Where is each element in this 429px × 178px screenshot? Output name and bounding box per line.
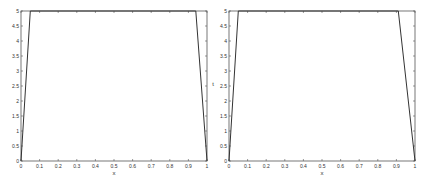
y-tick-label: 5 <box>224 8 227 14</box>
y-tick-label: 4.5 <box>12 23 19 29</box>
y-tick-label: 1.5 <box>12 113 19 119</box>
x-tick-label: 0.7 <box>148 163 155 169</box>
y-tick-label: 0 <box>16 158 19 164</box>
data-line <box>21 11 207 161</box>
y-tick-label: 1.5 <box>220 113 227 119</box>
x-tick-label: 0.6 <box>129 163 136 169</box>
y-axis-label: t <box>212 81 214 87</box>
y-tick-label: 3 <box>224 68 227 74</box>
y-tick-label: 1 <box>224 128 227 134</box>
x-tick-label: 0.4 <box>300 163 307 169</box>
figure: 00.10.20.30.40.50.60.70.80.9100.511.522.… <box>0 0 429 178</box>
y-tick-label: 2 <box>224 98 227 104</box>
y-tick-label: 0.5 <box>12 143 19 149</box>
y-tick-label: 2.5 <box>12 83 19 89</box>
x-tick-label: 0.6 <box>337 163 344 169</box>
y-tick-label: 4.5 <box>220 23 227 29</box>
x-tick-label: 0.2 <box>55 163 62 169</box>
x-tick-label: 0.1 <box>36 163 43 169</box>
x-axis-label: x <box>113 170 116 176</box>
y-tick-label: 4 <box>224 38 227 44</box>
y-tick-label: 0 <box>224 158 227 164</box>
x-tick-label: 1 <box>414 163 417 169</box>
y-tick-label: 4 <box>16 38 19 44</box>
x-tick-label: 0.2 <box>263 163 270 169</box>
chart-panel-1: 00.10.20.30.40.50.60.70.80.9100.511.522.… <box>12 8 209 176</box>
y-tick-label: 3.5 <box>12 53 19 59</box>
x-tick-label: 0.7 <box>356 163 363 169</box>
x-axis-label: x <box>321 170 324 176</box>
x-tick-label: 0.5 <box>319 163 326 169</box>
x-tick-label: 1 <box>206 163 209 169</box>
x-tick-label: 0 <box>20 163 23 169</box>
x-tick-label: 0 <box>228 163 231 169</box>
y-tick-label: 3.5 <box>220 53 227 59</box>
x-tick-label: 0.4 <box>92 163 99 169</box>
y-tick-label: 1 <box>16 128 19 134</box>
x-tick-label: 0.8 <box>374 163 381 169</box>
x-tick-label: 0.9 <box>393 163 400 169</box>
chart-panel-2: 00.10.20.30.40.50.60.70.80.9100.511.522.… <box>212 8 416 176</box>
x-tick-label: 0.9 <box>185 163 192 169</box>
x-tick-label: 0.3 <box>281 163 288 169</box>
axes-box <box>229 11 415 161</box>
data-line <box>229 11 415 161</box>
y-tick-label: 0.5 <box>220 143 227 149</box>
y-tick-label: 5 <box>16 8 19 14</box>
y-tick-label: 2 <box>16 98 19 104</box>
y-tick-label: 3 <box>16 68 19 74</box>
x-tick-label: 0.3 <box>73 163 80 169</box>
axes-box <box>21 11 207 161</box>
y-tick-label: 2.5 <box>220 83 227 89</box>
x-tick-label: 0.8 <box>166 163 173 169</box>
x-tick-label: 0.1 <box>244 163 251 169</box>
x-tick-label: 0.5 <box>111 163 118 169</box>
